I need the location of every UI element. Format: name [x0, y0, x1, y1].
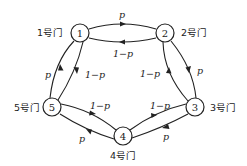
node-3: 3 [186, 98, 204, 116]
edge-label-4-3: 1−p [150, 100, 170, 111]
door-label-1: 1号门 [37, 27, 63, 38]
node-2: 2 [156, 24, 174, 42]
door-label-4: 4号门 [110, 150, 136, 161]
node-1: 1 [71, 24, 89, 42]
edge-label-2-3: p [197, 65, 203, 76]
edge-label-4-5: p [79, 133, 85, 144]
node-label: 1 [77, 28, 83, 39]
edge-label-2-1: 1−p [113, 48, 133, 59]
door-label-2: 2号门 [181, 27, 207, 38]
edge-label-3-4: p [163, 131, 169, 142]
markov-chain-diagram: p 1−p p 1−p p 1−p p 1−p p 1−p 1 2 3 4 5 [0, 0, 247, 166]
edge-label-1-5: 1−p [85, 69, 105, 80]
node-4: 4 [114, 127, 132, 145]
door-label-3: 3号门 [210, 102, 236, 113]
arrow-right-icon [120, 22, 126, 27]
node-5: 5 [43, 98, 61, 116]
edge-label-5-1: p [45, 69, 51, 80]
edge-2-to-3 [171, 41, 196, 98]
arrow-down-icon [74, 67, 80, 74]
edge-3-to-4 [132, 114, 188, 138]
edge-label-1-2: p [119, 9, 125, 20]
arrow-right-down-icon [89, 111, 96, 116]
arrow-up-icon [166, 67, 172, 74]
edge-label-3-2: 1−p [140, 68, 160, 79]
arrow-left-up-icon [86, 129, 92, 135]
edge-label-5-4: 1−p [90, 100, 110, 111]
node-label: 5 [49, 102, 55, 113]
arrow-right-up-icon [151, 113, 157, 118]
node-label: 3 [192, 102, 198, 113]
node-label: 2 [162, 28, 168, 39]
edge-1-to-5 [58, 42, 83, 100]
edge-4-to-5 [60, 114, 114, 139]
node-label: 4 [120, 131, 126, 142]
arrow-left-icon [119, 40, 125, 45]
door-label-5: 5号门 [14, 102, 40, 113]
